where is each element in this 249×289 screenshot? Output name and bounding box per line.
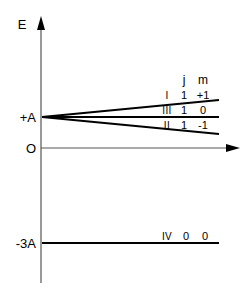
energy-level-diagram: E +A O -3A j m I 1 +1 III 1 0 II 1 -1 IV… xyxy=(0,0,249,289)
level-m-IV: 0 xyxy=(202,230,208,242)
level-label-IV: IV xyxy=(162,231,172,242)
level-j-I: 1 xyxy=(181,89,187,101)
level-m-II: -1 xyxy=(198,119,208,131)
y-tick-label-plus-a: +A xyxy=(20,110,37,125)
column-header-m: m xyxy=(198,73,208,87)
y-tick-label-zero: O xyxy=(26,141,36,156)
level-m-III: 0 xyxy=(200,104,206,116)
level-label-III: III xyxy=(162,105,172,116)
y-tick-label-minus-3a: -3A xyxy=(16,236,37,251)
level-j-II: 1 xyxy=(181,119,187,131)
level-label-II: II xyxy=(164,120,170,131)
y-axis-label: E xyxy=(18,17,27,32)
level-j-IV: 0 xyxy=(183,230,189,242)
level-m-I: +1 xyxy=(197,89,210,101)
y-axis-arrowhead xyxy=(37,16,45,30)
level-label-I: I xyxy=(165,90,168,101)
level-line-I xyxy=(42,100,219,117)
level-line-II xyxy=(42,117,219,134)
column-header-j: j xyxy=(182,73,186,87)
x-axis-arrowhead xyxy=(226,144,240,152)
level-j-III: 1 xyxy=(181,104,187,116)
